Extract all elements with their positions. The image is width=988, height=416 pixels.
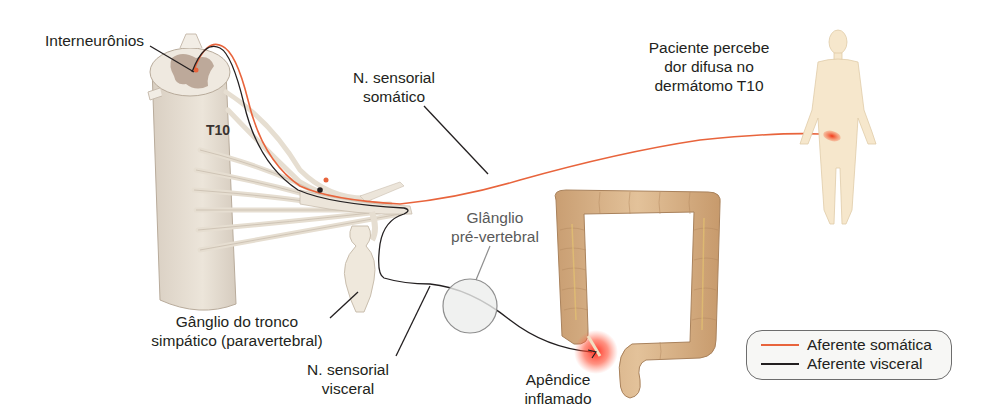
- inflamed-appendix-label: Apêndice inflamado: [520, 370, 596, 408]
- somatic-nerve-label: N. sensorial somático: [344, 68, 444, 106]
- somatic-line-swatch-icon: [761, 344, 799, 346]
- spinal-level-label: T10: [206, 122, 230, 138]
- sympathetic-trunk-ganglion: [344, 212, 375, 312]
- human-figure: [800, 30, 876, 224]
- prevertebral-ganglion-label: Glânglio pré-vertebral: [447, 208, 543, 246]
- visceral-nerve-label: N. sensorial visceral: [300, 360, 396, 398]
- visceral-line-swatch-icon: [761, 363, 799, 365]
- referred-pain-diagram: Interneurônios T10 N. sensorial somático…: [0, 0, 988, 416]
- prevertebral-ganglion: [443, 279, 497, 333]
- colon-illustration: [555, 190, 720, 398]
- patient-perception-label: Paciente percebe dor difusa no dermátomo…: [646, 38, 772, 95]
- sympathetic-ganglion-label: Gânglio do tronco simpático (paravertebr…: [142, 312, 332, 350]
- legend: Aferente somática Aferente visceral: [746, 330, 952, 380]
- legend-item-visceral: Aferente visceral: [761, 355, 922, 373]
- interneurons-label: Interneurônios: [45, 31, 144, 50]
- legend-item-somatic: Aferente somática: [761, 336, 932, 354]
